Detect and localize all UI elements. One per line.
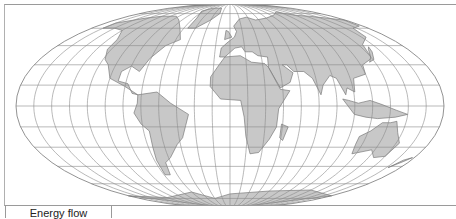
tab-energy-flow[interactable]: Energy flow — [5, 206, 112, 218]
land-indonesia — [343, 99, 408, 119]
meridian-line — [177, 4, 231, 206]
world-map[interactable] — [4, 4, 455, 206]
map-canvas[interactable] — [4, 4, 456, 206]
tab-bar: Energy flow — [0, 206, 454, 215]
land-uk — [225, 30, 232, 39]
